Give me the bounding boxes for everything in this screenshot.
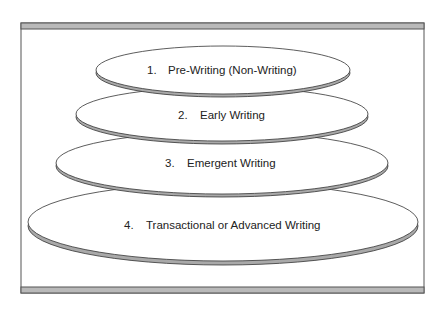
stage-4-number: 4. — [124, 219, 134, 231]
stage-3-label: Emergent Writing — [187, 157, 276, 169]
stage-2-number: 2. — [178, 109, 188, 121]
stage-1-number: 1. — [147, 64, 157, 76]
frame-top-bar — [21, 23, 424, 29]
stages-diagram: 4. Transactional or Advanced Writing 3. … — [0, 0, 446, 309]
stage-3-number: 3. — [165, 157, 175, 169]
stage-1-label: Pre-Writing (Non-Writing) — [168, 64, 297, 76]
stage-2-label: Early Writing — [200, 109, 265, 121]
stage-1: 1. Pre-Writing (Non-Writing) — [96, 46, 350, 97]
frame-bottom-bar — [21, 287, 424, 293]
stage-4-label: Transactional or Advanced Writing — [146, 219, 321, 231]
